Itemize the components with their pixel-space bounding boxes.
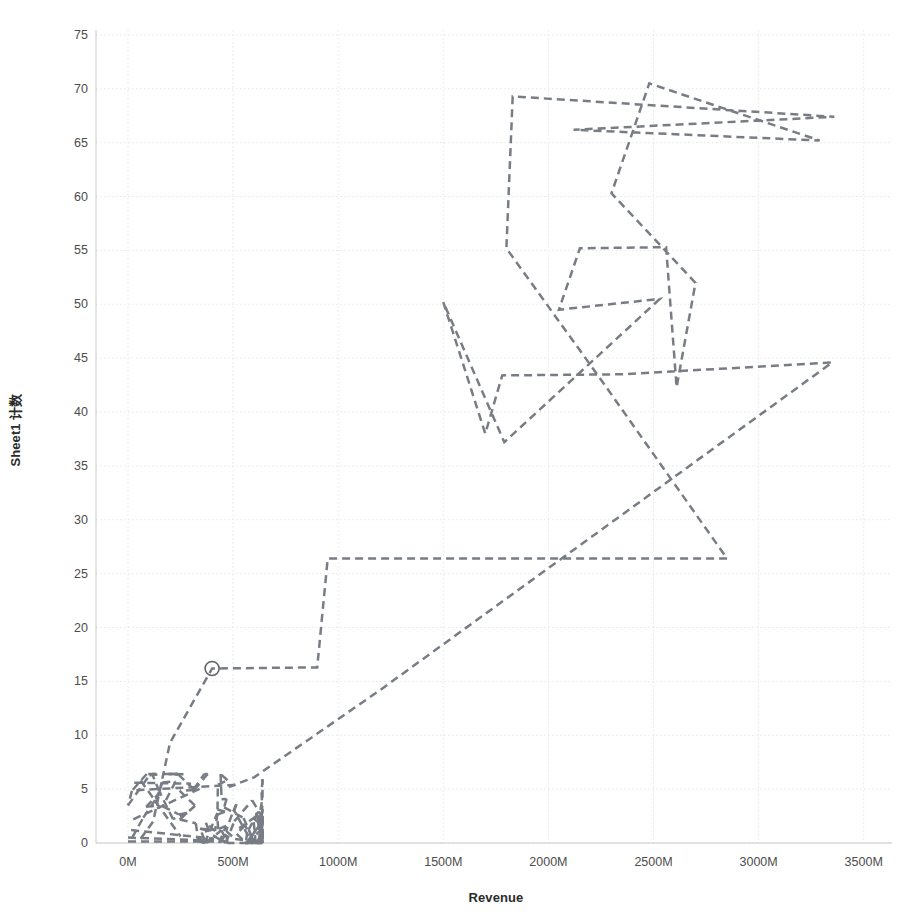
y-tick-label-60: 60 bbox=[74, 190, 88, 204]
y-tick-label-30: 30 bbox=[74, 513, 88, 527]
y-tick-label-25: 25 bbox=[74, 567, 88, 581]
x-tick-label-1000M: 1000M bbox=[319, 855, 357, 869]
y-tick-label-65: 65 bbox=[74, 136, 88, 150]
y-tick-label-0: 0 bbox=[81, 836, 88, 850]
y-axis-title: Sheet1 计数 bbox=[5, 393, 24, 466]
vertical-gridlines bbox=[128, 30, 864, 843]
y-tick-label-5: 5 bbox=[81, 782, 88, 796]
y-tick-label-55: 55 bbox=[74, 243, 88, 257]
x-tick-label-1500M: 1500M bbox=[424, 855, 462, 869]
x-tick-label-2500M: 2500M bbox=[634, 855, 672, 869]
y-tick-label-35: 35 bbox=[74, 459, 88, 473]
horizontal-gridlines bbox=[96, 35, 892, 843]
chart-canvas: 051015202530354045505560657075 0M500M100… bbox=[0, 0, 901, 919]
y-tick-label-40: 40 bbox=[74, 405, 88, 419]
y-tick-label-50: 50 bbox=[74, 297, 88, 311]
x-tick-label-3500M: 3500M bbox=[845, 855, 883, 869]
x-axis-title: Revenue bbox=[469, 890, 524, 905]
x-tick-label-0M: 0M bbox=[119, 855, 136, 869]
y-tick-label-10: 10 bbox=[74, 728, 88, 742]
y-tick-label-20: 20 bbox=[74, 621, 88, 635]
y-tick-label-70: 70 bbox=[74, 82, 88, 96]
x-tick-label-3000M: 3000M bbox=[739, 855, 777, 869]
y-tick-label-15: 15 bbox=[74, 674, 88, 688]
origin-dense-cluster bbox=[128, 774, 263, 843]
x-tick-label-500M: 500M bbox=[217, 855, 248, 869]
plot-area bbox=[0, 0, 901, 919]
y-tick-label-45: 45 bbox=[74, 351, 88, 365]
y-tick-label-75: 75 bbox=[74, 28, 88, 42]
x-tick-label-2000M: 2000M bbox=[529, 855, 567, 869]
